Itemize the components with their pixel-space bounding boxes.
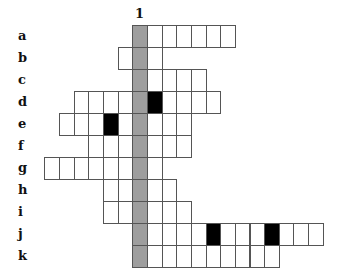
grid-cell-white[interactable] bbox=[88, 113, 104, 136]
row-label-h: h bbox=[18, 179, 32, 201]
grid-cell-white[interactable] bbox=[162, 179, 178, 202]
row-label-f: f bbox=[18, 135, 32, 157]
grid-cell-white[interactable] bbox=[74, 91, 90, 114]
grid-cell-white[interactable] bbox=[235, 245, 251, 268]
grid-cell-white[interactable] bbox=[162, 25, 178, 48]
grid-cell-white[interactable] bbox=[103, 179, 119, 202]
grid-cell-white[interactable] bbox=[74, 113, 90, 136]
grid-cell-white[interactable] bbox=[118, 135, 134, 158]
grid-cell-white[interactable] bbox=[264, 245, 280, 268]
grid-cell-white[interactable] bbox=[147, 113, 163, 136]
grid-cell-white[interactable] bbox=[147, 245, 163, 268]
grid-cell-highlighted[interactable] bbox=[132, 223, 148, 246]
grid-cell-white[interactable] bbox=[118, 179, 134, 202]
row-label-j: j bbox=[18, 223, 32, 245]
grid-cell-white[interactable] bbox=[59, 113, 75, 136]
grid-cell-white[interactable] bbox=[162, 69, 178, 92]
row-label-c: c bbox=[18, 69, 32, 91]
grid-cell-white[interactable] bbox=[176, 245, 192, 268]
grid-cell-white[interactable] bbox=[147, 47, 163, 70]
grid-cell-white[interactable] bbox=[308, 223, 324, 246]
grid-cell-white[interactable] bbox=[206, 245, 222, 268]
grid-cell-white[interactable] bbox=[147, 223, 163, 246]
grid-cell-white[interactable] bbox=[220, 245, 236, 268]
grid-cell-white[interactable] bbox=[176, 223, 192, 246]
grid-cell-black bbox=[147, 91, 163, 114]
grid-cell-white[interactable] bbox=[147, 157, 163, 180]
grid-cell-highlighted[interactable] bbox=[132, 91, 148, 114]
grid-cell-white[interactable] bbox=[147, 69, 163, 92]
grid-cell-white[interactable] bbox=[162, 91, 178, 114]
grid-cell-white[interactable] bbox=[191, 223, 207, 246]
grid-cell-white[interactable] bbox=[59, 157, 75, 180]
grid-cell-white[interactable] bbox=[162, 245, 178, 268]
grid-cell-white[interactable] bbox=[118, 201, 134, 224]
grid-cell-highlighted[interactable] bbox=[132, 25, 148, 48]
grid-cell-white[interactable] bbox=[279, 223, 295, 246]
grid-cell-white[interactable] bbox=[220, 25, 236, 48]
grid-cell-white[interactable] bbox=[44, 157, 60, 180]
grid-cell-white[interactable] bbox=[176, 69, 192, 92]
grid-cell-white[interactable] bbox=[250, 245, 266, 268]
grid-cell-white[interactable] bbox=[206, 25, 222, 48]
grid-cell-highlighted[interactable] bbox=[132, 179, 148, 202]
grid-cell-white[interactable] bbox=[162, 135, 178, 158]
grid-cell-white[interactable] bbox=[74, 157, 90, 180]
grid-cell-white[interactable] bbox=[220, 223, 236, 246]
grid-cell-white[interactable] bbox=[88, 91, 104, 114]
column-number-label: 1 bbox=[132, 6, 147, 21]
grid-cell-highlighted[interactable] bbox=[132, 135, 148, 158]
row-label-i: i bbox=[18, 201, 32, 223]
grid-cell-white[interactable] bbox=[162, 201, 178, 224]
row-label-g: g bbox=[18, 157, 32, 179]
grid-cell-white[interactable] bbox=[88, 135, 104, 158]
grid-cell-white[interactable] bbox=[176, 91, 192, 114]
grid-cell-white[interactable] bbox=[206, 91, 222, 114]
grid-cell-white[interactable] bbox=[103, 157, 119, 180]
grid-cell-white[interactable] bbox=[176, 113, 192, 136]
grid-cell-black bbox=[206, 223, 222, 246]
grid-cell-white[interactable] bbox=[147, 201, 163, 224]
grid-cell-white[interactable] bbox=[118, 47, 134, 70]
grid-cell-black bbox=[103, 113, 119, 136]
grid-cell-white[interactable] bbox=[235, 223, 251, 246]
grid-cell-white[interactable] bbox=[147, 135, 163, 158]
grid-cell-white[interactable] bbox=[176, 135, 192, 158]
grid-cell-white[interactable] bbox=[103, 201, 119, 224]
grid-cell-white[interactable] bbox=[147, 179, 163, 202]
grid-cell-white[interactable] bbox=[191, 69, 207, 92]
grid-cell-highlighted[interactable] bbox=[132, 157, 148, 180]
grid-cell-white[interactable] bbox=[88, 157, 104, 180]
grid-cell-highlighted[interactable] bbox=[132, 201, 148, 224]
grid-cell-highlighted[interactable] bbox=[132, 47, 148, 70]
grid-cell-white[interactable] bbox=[118, 113, 134, 136]
grid-cell-black bbox=[264, 223, 280, 246]
grid-cell-white[interactable] bbox=[147, 25, 163, 48]
row-label-a: a bbox=[18, 25, 32, 47]
grid-cell-white[interactable] bbox=[162, 223, 178, 246]
grid-cell-highlighted[interactable] bbox=[132, 113, 148, 136]
grid-cell-white[interactable] bbox=[103, 91, 119, 114]
row-label-d: d bbox=[18, 91, 32, 113]
grid-cell-white[interactable] bbox=[250, 223, 266, 246]
grid-cell-white[interactable] bbox=[293, 223, 309, 246]
grid-cell-white[interactable] bbox=[191, 25, 207, 48]
row-label-k: k bbox=[18, 245, 32, 267]
grid-cell-highlighted[interactable] bbox=[132, 245, 148, 268]
grid-cell-white[interactable] bbox=[103, 135, 119, 158]
grid-cell-highlighted[interactable] bbox=[132, 69, 148, 92]
grid-cell-white[interactable] bbox=[162, 113, 178, 136]
grid-cell-white[interactable] bbox=[118, 91, 134, 114]
grid-cell-white[interactable] bbox=[191, 91, 207, 114]
row-label-b: b bbox=[18, 47, 32, 69]
grid-cell-white[interactable] bbox=[191, 245, 207, 268]
grid-cell-white[interactable] bbox=[176, 25, 192, 48]
grid-cell-white[interactable] bbox=[118, 157, 134, 180]
row-label-e: e bbox=[18, 113, 32, 135]
grid-cell-white[interactable] bbox=[176, 201, 192, 224]
